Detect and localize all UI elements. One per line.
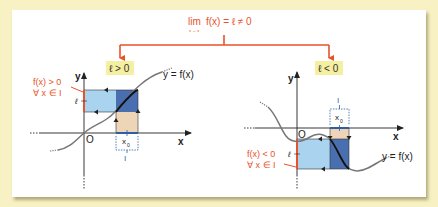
limit-formula: lim x → x f(x) = ℓ ≠ 0 bbox=[188, 16, 252, 33]
x0-label: x bbox=[122, 137, 126, 146]
graph-negative: y x O ℓ y = f(x) x 0 I f(x) < 0 ∀ x ∈ I bbox=[244, 72, 413, 190]
case-label-negative: ℓ < 0 bbox=[315, 61, 343, 75]
x-axis-label: x bbox=[178, 136, 184, 147]
condition-line-1: f(x) < 0 bbox=[247, 149, 275, 159]
interval-label: I bbox=[337, 96, 339, 105]
y-axis-label: y bbox=[288, 73, 294, 84]
limit-sign-diagram: lim x → x f(x) = ℓ ≠ 0 ℓ > 0 ℓ < 0 bbox=[0, 0, 438, 207]
condition-line-1: f(x) > 0 bbox=[33, 77, 61, 87]
neighborhood-band bbox=[297, 139, 330, 169]
preimage-region bbox=[116, 112, 138, 133]
graph-positive: y x O ℓ y = f(x) x 0 I f(x) > 0 ∀ x ∈ I bbox=[30, 68, 194, 190]
neighborhood-band bbox=[84, 90, 116, 112]
curve-label: y = f(x) bbox=[163, 69, 194, 80]
curve-label: y = f(x) bbox=[382, 151, 413, 162]
x-axis-label: x bbox=[393, 131, 399, 142]
branch-connector bbox=[120, 35, 329, 58]
svg-text:ℓ < 0: ℓ < 0 bbox=[318, 63, 339, 74]
limit-expression: f(x) = ℓ ≠ 0 bbox=[206, 16, 252, 27]
y-axis-label: y bbox=[75, 71, 81, 82]
origin-label: O bbox=[298, 129, 306, 140]
condition-line-2: ∀ x ∈ I bbox=[33, 88, 62, 98]
origin-label: O bbox=[86, 134, 94, 145]
svg-text:ℓ > 0: ℓ > 0 bbox=[109, 63, 130, 74]
interval-label: I bbox=[124, 154, 126, 163]
limit-subscript: x → x bbox=[189, 28, 199, 33]
ell-label: ℓ bbox=[287, 150, 291, 159]
condition-line-2: ∀ x ∈ I bbox=[247, 160, 276, 170]
case-label-positive: ℓ > 0 bbox=[106, 61, 134, 75]
x0-subscript: 0 bbox=[340, 118, 343, 124]
x0-subscript: 0 bbox=[127, 142, 130, 148]
ell-label: ℓ bbox=[74, 97, 78, 106]
x0-label: x bbox=[335, 113, 339, 122]
limit-prefix: lim bbox=[188, 16, 201, 27]
